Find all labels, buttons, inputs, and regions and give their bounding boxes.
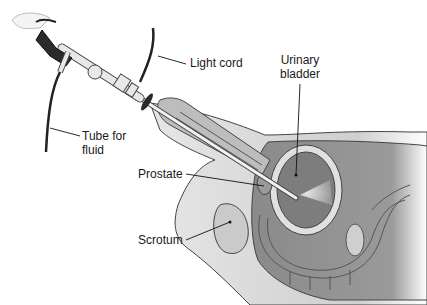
label-tube-line2: fluid — [82, 143, 126, 157]
label-urinary-bladder-line2: bladder — [278, 67, 322, 81]
label-light-cord: Light cord — [190, 56, 243, 70]
label-urinary-bladder-line1: Urinary — [278, 53, 322, 67]
light-cord — [140, 28, 153, 82]
label-scrotum: Scrotum — [138, 233, 183, 247]
eye — [12, 13, 50, 29]
label-tube-for-fluid: Tube for fluid — [82, 129, 126, 157]
label-urinary-bladder: Urinary bladder — [278, 53, 322, 81]
label-tube-line1: Tube for — [82, 129, 126, 143]
label-prostate: Prostate — [138, 167, 183, 181]
fluid-tube — [46, 72, 60, 152]
cystoscopy-illustration — [0, 0, 427, 305]
